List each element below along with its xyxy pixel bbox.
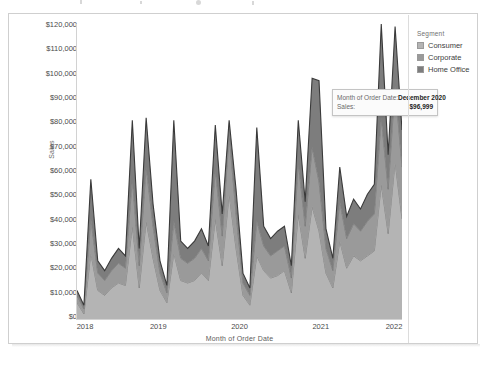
legend-item-corporate[interactable]: Corporate: [417, 53, 479, 62]
y-axis-tick-label: $110,000: [46, 44, 77, 53]
x-axis-tick-label: 2019: [150, 322, 167, 331]
y-axis-tick-label: $30,000: [50, 239, 77, 248]
y-axis-tick-label: $90,000: [50, 93, 77, 102]
legend-swatch-icon: [417, 66, 424, 73]
legend-item-label: Home Office: [428, 65, 470, 74]
x-axis-tick-label: 2020: [231, 322, 248, 331]
y-axis-tick-label: $100,000: [46, 68, 77, 77]
tooltip-value-sales: $96,999: [410, 102, 434, 111]
legend-item-label: Consumer: [428, 41, 463, 50]
data-tooltip: Month of Order Date: December 2020 Sales…: [332, 89, 438, 116]
tooltip-key-date: Month of Order Date:: [337, 93, 398, 102]
chart-worksheet: Sales $120,000$110,000$100,000$90,000$80…: [8, 13, 478, 344]
y-axis-tick-label: $10,000: [50, 287, 77, 296]
legend: Segment ConsumerCorporateHome Office: [417, 30, 479, 77]
legend-swatch-icon: [417, 42, 424, 49]
scan-artifacts: [0, 0, 495, 10]
y-axis-tick-label: $50,000: [50, 190, 77, 199]
tooltip-key-sales: Sales:: [337, 102, 355, 111]
x-axis-tick-label: 2022: [386, 322, 403, 331]
worksheet-shadow: [12, 344, 480, 347]
y-axis: $120,000$110,000$100,000$90,000$80,000$7…: [39, 22, 77, 318]
x-axis-title: Month of Order Date: [77, 335, 402, 342]
x-axis-line: [77, 319, 402, 320]
x-axis-tick-label: 2021: [312, 322, 329, 331]
legend-item-home-office[interactable]: Home Office: [417, 65, 479, 74]
stacked-area-chart[interactable]: [77, 24, 402, 320]
chart-body: Sales $120,000$110,000$100,000$90,000$80…: [9, 14, 407, 343]
y-axis-tick-label: $80,000: [50, 117, 77, 126]
legend-items: ConsumerCorporateHome Office: [417, 41, 479, 74]
y-axis-tick-label: $70,000: [50, 141, 77, 150]
y-axis-tick-label: $60,000: [50, 166, 77, 175]
legend-item-consumer[interactable]: Consumer: [417, 41, 479, 50]
legend-divider: [408, 15, 409, 343]
x-axis-tick-label: 2018: [77, 322, 94, 331]
tooltip-row-sales: Sales: $96,999: [337, 102, 433, 111]
tooltip-value-date: December 2020: [398, 93, 446, 102]
y-axis-tick-label: $40,000: [50, 214, 77, 223]
y-axis-tick-label: $20,000: [50, 263, 77, 272]
legend-swatch-icon: [417, 54, 424, 61]
tooltip-row-date: Month of Order Date: December 2020: [337, 93, 433, 102]
legend-item-label: Corporate: [428, 53, 461, 62]
y-axis-tick-label: $120,000: [46, 20, 77, 29]
plot-area[interactable]: [77, 24, 402, 320]
legend-title: Segment: [417, 30, 479, 37]
x-axis: 20182019202020212022: [77, 322, 402, 336]
